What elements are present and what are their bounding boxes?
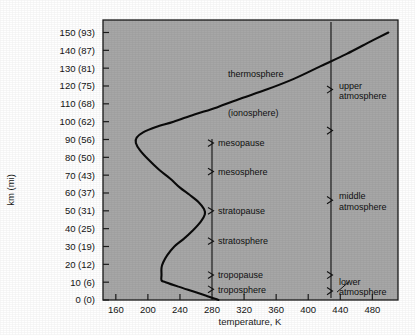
y-tick-label: 90 (56) <box>65 134 95 145</box>
atmosphere-temperature-profile-figure: 0 (0)10 (6)20 (12)30 (19)40 (25)50 (31)6… <box>0 0 415 335</box>
y-tick-label: 150 (93) <box>60 27 95 38</box>
layer-label: stratopause <box>218 206 265 216</box>
y-axis-label: km (mi) <box>5 174 16 206</box>
layer-label: thermosphere <box>228 69 284 79</box>
y-tick-label: 0 (0) <box>75 294 95 305</box>
x-tick-label: 360 <box>268 304 284 315</box>
x-tick-label: 480 <box>364 304 380 315</box>
x-tick-label: 240 <box>172 304 188 315</box>
y-tick-label: 50 (31) <box>65 205 95 216</box>
y-tick-label: 130 (81) <box>60 63 95 74</box>
layer-label: mesosphere <box>218 167 268 177</box>
region-label-line2: atmosphere <box>339 287 387 297</box>
x-tick-label: 440 <box>332 304 348 315</box>
region-label-line2: atmosphere <box>339 202 387 212</box>
y-tick-label: 20 (12) <box>65 259 95 270</box>
x-axis-tick-labels: 160200240280320360400440480 <box>108 304 380 315</box>
layer-label: stratosphere <box>218 236 268 246</box>
y-tick-label: 70 (43) <box>65 170 95 181</box>
region-label-line1: middle <box>339 191 366 201</box>
y-tick-label: 60 (37) <box>65 187 95 198</box>
x-tick-label: 400 <box>300 304 316 315</box>
plot-area-background <box>103 20 398 300</box>
x-tick-label: 200 <box>140 304 156 315</box>
x-tick-label: 160 <box>108 304 124 315</box>
layer-label: mesopause <box>218 138 265 148</box>
x-tick-label: 320 <box>236 304 252 315</box>
region-label-line1: upper <box>339 81 362 91</box>
layer-label: tropopause <box>218 270 263 280</box>
region-label-line1: lower <box>339 277 361 287</box>
x-tick-label: 280 <box>204 304 220 315</box>
y-tick-label: 10 (6) <box>70 277 95 288</box>
region-label-line2: atmosphere <box>339 91 387 101</box>
layer-label: troposphere <box>218 285 266 295</box>
y-tick-label: 110 (68) <box>60 98 95 109</box>
chart-svg: 0 (0)10 (6)20 (12)30 (19)40 (25)50 (31)6… <box>0 0 415 335</box>
y-tick-label: 100 (62) <box>60 116 95 127</box>
y-tick-label: 80 (50) <box>65 152 95 163</box>
layer-label: (ionosphere) <box>228 108 279 118</box>
y-tick-label: 120 (75) <box>60 80 95 91</box>
y-tick-label: 40 (25) <box>65 223 95 234</box>
x-axis-label: temperature, K <box>219 316 282 327</box>
y-tick-label: 30 (19) <box>65 241 95 252</box>
y-tick-label: 140 (87) <box>60 45 95 56</box>
